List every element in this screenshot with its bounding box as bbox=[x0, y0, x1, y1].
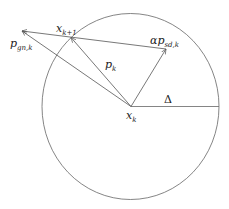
label-x-k1: xk+1 bbox=[56, 22, 77, 37]
dogleg-diagram: xk+1 pgn,k αpsd,k pk xk Δ bbox=[0, 0, 229, 209]
label-x-k: xk bbox=[126, 109, 136, 124]
label-p-k: pk bbox=[105, 58, 116, 73]
label-p-gn: pgn,k bbox=[10, 37, 33, 52]
label-delta: Δ bbox=[164, 93, 172, 106]
p-k-arrow bbox=[71, 38, 131, 107]
label-p-sd: αpsd,k bbox=[150, 34, 179, 49]
p-sd-arrow bbox=[131, 49, 166, 107]
